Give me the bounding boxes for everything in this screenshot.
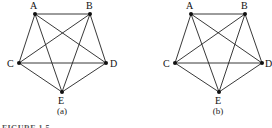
graph-a: ABCDE(a): [7, 0, 117, 116]
vertex-label: B: [86, 0, 93, 11]
vertex-a: [189, 12, 193, 16]
edge-ac: [175, 14, 191, 63]
vertex-label: E: [215, 95, 221, 106]
vertex-e: [217, 90, 221, 94]
graph-b: ABCDE(b): [163, 0, 272, 116]
edge-ac: [19, 14, 35, 63]
edge-ce: [19, 63, 62, 92]
vertex-c: [173, 61, 177, 65]
vertex-d: [104, 61, 108, 65]
vertex-d: [260, 61, 264, 65]
vertex-c: [17, 61, 21, 65]
vertex-label: A: [186, 0, 194, 11]
edge-de: [62, 63, 106, 92]
vertex-b: [88, 12, 92, 16]
edge-bc: [175, 14, 245, 63]
edge-bd: [245, 14, 262, 63]
vertex-label: C: [163, 58, 170, 69]
vertex-label: D: [110, 58, 117, 69]
vertex-label: E: [58, 95, 64, 106]
subfigure-label: (a): [57, 106, 67, 116]
edge-ad: [191, 14, 262, 63]
vertex-a: [33, 12, 37, 16]
edge-be: [62, 14, 90, 92]
edge-ce: [175, 63, 219, 92]
figure-caption: FIGURE 1.5: [2, 124, 50, 128]
edge-ad: [35, 14, 106, 63]
edge-de: [219, 63, 262, 92]
edge-bc: [19, 14, 90, 63]
vertex-b: [243, 12, 247, 16]
edge-be: [219, 14, 245, 92]
edge-ae: [35, 14, 62, 92]
vertex-label: C: [7, 58, 14, 69]
edge-ae: [191, 14, 219, 92]
vertex-label: A: [30, 0, 38, 11]
vertex-label: D: [265, 58, 272, 69]
edge-bd: [90, 14, 106, 63]
vertex-e: [60, 90, 64, 94]
graph-figure: ABCDE(a) ABCDE(b) FIGURE 1.5: [0, 0, 272, 128]
vertex-label: B: [241, 0, 248, 11]
subfigure-label: (b): [213, 106, 224, 116]
